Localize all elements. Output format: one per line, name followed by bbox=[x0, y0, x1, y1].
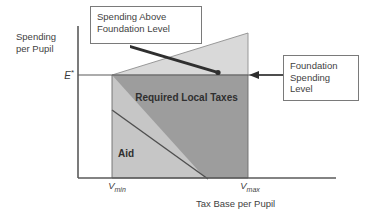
e-star-base: E bbox=[64, 70, 71, 81]
e-star-tick-label: E* bbox=[52, 68, 74, 81]
x-axis-label: Tax Base per Pupil bbox=[196, 198, 326, 210]
vmax-subscript: max bbox=[247, 186, 260, 193]
callout-foundation-spending-level: Foundation Spending Level bbox=[283, 55, 359, 101]
x-tick-vmax: Vmax bbox=[232, 180, 268, 193]
region-label-aid: Aid bbox=[118, 148, 148, 159]
x-tick-vmin: Vmin bbox=[100, 180, 134, 193]
vmin-subscript: min bbox=[115, 186, 126, 193]
region-label-required-local-taxes: Required Local Taxes bbox=[124, 92, 249, 103]
y-axis-label: Spending per Pupil bbox=[16, 31, 78, 54]
foundation-level-arrow-head bbox=[249, 71, 259, 79]
callout-spending-above-foundation: Spending Above Foundation Level bbox=[90, 6, 202, 44]
spending-above-pointer-tip bbox=[215, 70, 220, 75]
e-star-asterisk: * bbox=[71, 68, 74, 77]
